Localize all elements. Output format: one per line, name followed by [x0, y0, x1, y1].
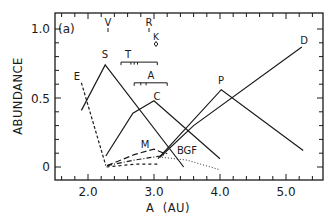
- bracket-A: [134, 83, 167, 86]
- series-label-C: C: [154, 91, 161, 102]
- x-tick-label-2.0: 2.0: [78, 185, 97, 199]
- series-line-e: [81, 83, 105, 166]
- series-label-BGF: BGF: [177, 145, 197, 156]
- annotation-label-A: A: [148, 70, 155, 81]
- x-tick-label-5.0: 5.0: [276, 185, 295, 199]
- x-tick-label-4.0: 4.0: [210, 185, 229, 199]
- series-line-bgf: [162, 157, 220, 170]
- diamond-icon: [154, 42, 158, 47]
- series-line-m: [107, 149, 164, 166]
- series-label-D: D: [300, 35, 308, 46]
- series-label-M: M: [141, 139, 150, 150]
- bracket-T: [121, 62, 157, 65]
- annotation-label-T: T: [124, 49, 132, 60]
- x-tick-label-3.0: 3.0: [144, 185, 163, 199]
- abundance-chart: 1.0 0.5 0 2.0 3.0 4.0 5.0 A (AU) ABUNDAN…: [0, 0, 336, 222]
- series-line-s: [81, 65, 183, 167]
- y-tick-label-1.0: 1.0: [31, 22, 50, 36]
- series-label-P: P: [218, 75, 224, 86]
- y-tick-label-0.5: 0.5: [31, 92, 50, 106]
- y-axis-title: ABUNDANCE: [11, 57, 25, 135]
- series-label-S: S: [102, 49, 108, 60]
- series-line-d: [160, 47, 302, 157]
- x-axis-title: A (AU): [146, 201, 190, 215]
- y-tick-label-0: 0: [42, 160, 50, 174]
- annotation-label-V: V: [105, 17, 112, 28]
- annotation-label-K: K: [153, 32, 160, 42]
- series-label-E: E: [74, 71, 80, 82]
- panel-label: (a): [58, 22, 75, 36]
- annotation-label-R: R: [146, 17, 153, 28]
